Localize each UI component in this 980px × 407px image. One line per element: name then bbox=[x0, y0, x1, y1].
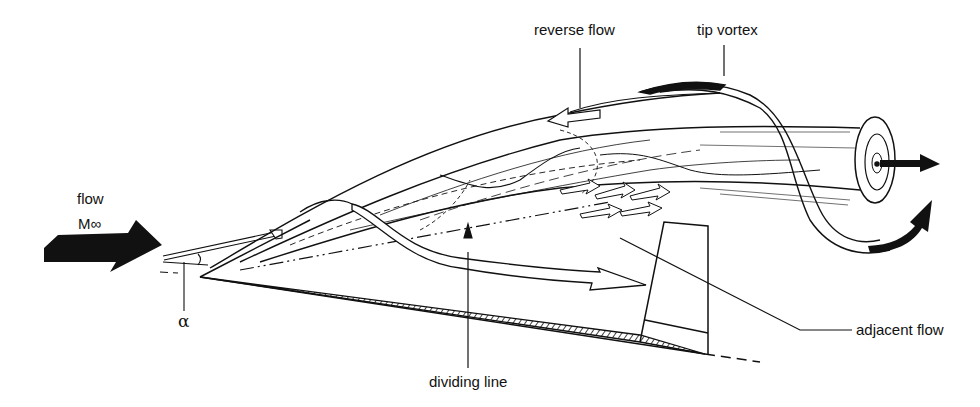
tip-vortex-label: tip vortex bbox=[697, 22, 758, 37]
swirl-arrow-icon bbox=[868, 200, 932, 253]
mach-label: M∞ bbox=[78, 216, 101, 231]
wing-planform bbox=[200, 202, 760, 362]
secondary-flow-arrows bbox=[560, 179, 670, 218]
alpha-label: α bbox=[178, 313, 189, 330]
vortex-sheet bbox=[210, 93, 860, 268]
delta-wing-vortex-diagram: flow M∞ α reverse flow tip vortex dividi… bbox=[0, 0, 980, 407]
freestream-arrow-icon bbox=[44, 220, 162, 272]
reverse-flow-label: reverse flow bbox=[534, 22, 615, 37]
flow-label: flow bbox=[77, 191, 104, 206]
diagram-drawing bbox=[0, 0, 980, 407]
reverse-flow-arrow bbox=[548, 93, 720, 127]
dividing-line-label: dividing line bbox=[429, 374, 507, 389]
tip-vortex-ribbon bbox=[640, 82, 890, 253]
adjacent-flow-label: adjacent flow bbox=[856, 322, 944, 337]
angle-of-attack-indicator bbox=[160, 230, 282, 311]
